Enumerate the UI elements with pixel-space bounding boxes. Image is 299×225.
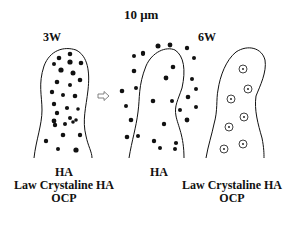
- crystal-rings-6w: [220, 65, 252, 153]
- crystal-dots-middle: [120, 43, 198, 151]
- crystal-dots-3w: [44, 52, 83, 153]
- stage-label-3w: 3W: [43, 31, 61, 44]
- legend-middle-ha: HA: [150, 166, 168, 179]
- legend-left: HA Law Crystaline HA OCP: [8, 166, 120, 205]
- legend-left-ocp: OCP: [8, 192, 120, 205]
- legend-right-ocp: OCP: [172, 192, 292, 205]
- crystal-ring-centers-6w: [223, 68, 249, 150]
- scale-label: 10 μm: [124, 8, 158, 21]
- stage-label-6w: 6W: [198, 31, 216, 44]
- legend-right: Law Crystaline HA OCP: [172, 179, 292, 205]
- cell-outline-6w: [206, 48, 265, 158]
- cell-outline-3w: [34, 49, 92, 158]
- transition-arrow-icon: [98, 92, 109, 101]
